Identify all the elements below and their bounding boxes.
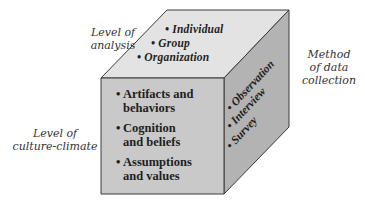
label-line: analysis	[83, 39, 143, 52]
item-label: Individual	[172, 23, 223, 35]
label-level-of-culture-climate: Level of culture-climate	[10, 127, 100, 153]
label-level-of-analysis: Level of analysis	[83, 26, 143, 52]
bullet: •	[165, 23, 169, 35]
front-item-cognition: • Cognition and beliefs	[116, 121, 222, 149]
bullet: •	[116, 155, 120, 169]
front-item-assumptions: • Assumptions and values	[116, 155, 222, 183]
bullet: •	[137, 51, 141, 63]
item-line: Cognition	[123, 121, 222, 135]
top-item-individual: • Individual	[165, 23, 224, 35]
item-label: Organization	[144, 51, 209, 63]
label-line: of data	[296, 61, 362, 74]
bullet: •	[116, 87, 120, 101]
label-line: collection	[296, 74, 362, 87]
front-face-list: • Artifacts and behaviors • Cognition an…	[116, 87, 222, 189]
label-line: culture-climate	[10, 140, 100, 153]
item-line: behaviors	[123, 101, 222, 115]
label-method-of-data-collection: Method of data collection	[296, 48, 362, 87]
item-line: Assumptions	[123, 155, 222, 169]
label-line: Level of	[10, 127, 100, 140]
item-line: Artifacts and	[123, 87, 222, 101]
top-item-organization: • Organization	[137, 51, 209, 63]
front-item-artifacts: • Artifacts and behaviors	[116, 87, 222, 115]
item-label: Group	[158, 37, 190, 49]
bullet: •	[116, 121, 120, 135]
bullet: •	[151, 37, 155, 49]
item-line: and values	[123, 169, 222, 183]
item-line: and beliefs	[123, 135, 222, 149]
label-line: Level of	[83, 26, 143, 39]
culture-climate-cube-diagram: Level of analysis Method of data collect…	[0, 0, 365, 211]
label-line: Method	[296, 48, 362, 61]
top-item-group: • Group	[151, 37, 190, 49]
